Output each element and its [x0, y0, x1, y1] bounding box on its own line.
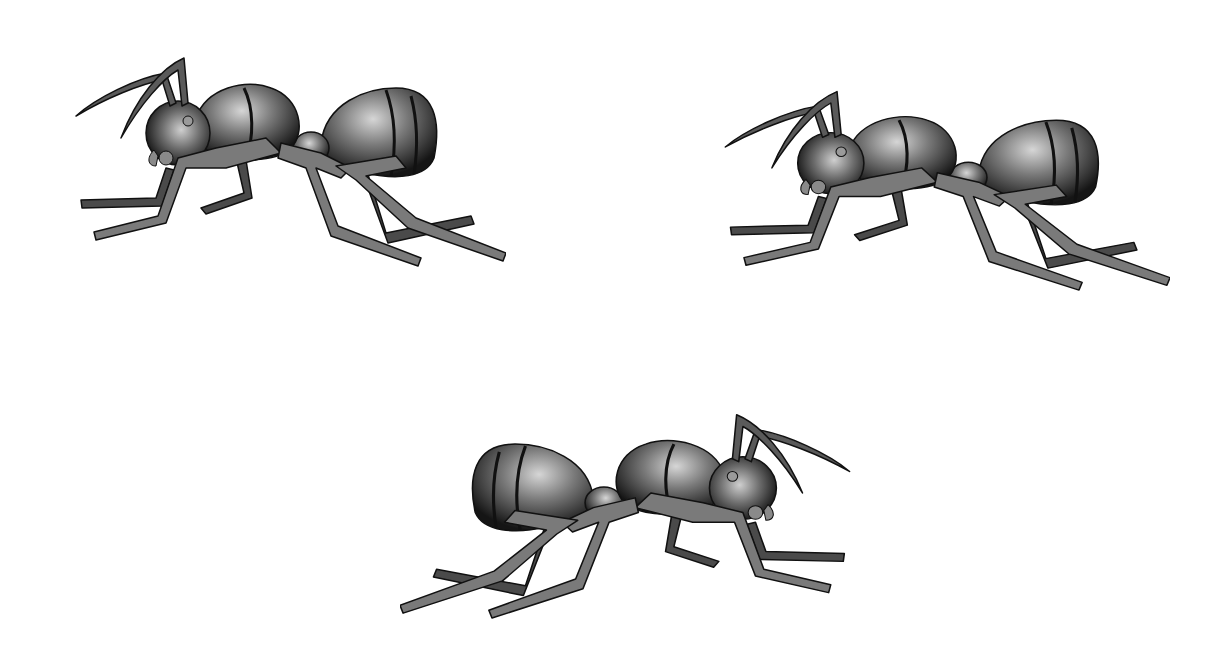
ant-icon: [400, 405, 860, 620]
ant-icon: [715, 82, 1170, 292]
ant-icon: [66, 48, 506, 268]
ant-illustration-top-left: [66, 48, 506, 268]
ant-illustration-bottom-center: [400, 405, 860, 620]
ant-illustration-top-right: [715, 82, 1170, 292]
